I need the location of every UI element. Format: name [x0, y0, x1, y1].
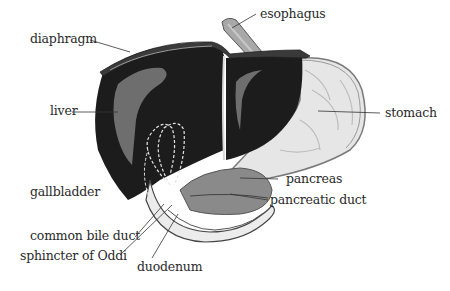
- pancreas-shape: [180, 168, 272, 215]
- label-duodenum: duodenum: [137, 261, 202, 274]
- label-pancreas: pancreas: [286, 173, 342, 186]
- label-gallbladder: gallbladder: [30, 186, 100, 199]
- label-sphincter-of-oddi: sphincter of Oddi: [20, 250, 127, 263]
- label-common-bile-duct: common bile duct: [30, 230, 140, 243]
- label-pancreatic-duct: pancreatic duct: [270, 194, 366, 207]
- label-diaphragm: diaphragm: [30, 33, 97, 46]
- label-liver: liver: [50, 105, 77, 118]
- label-stomach: stomach: [385, 107, 437, 120]
- anatomy-diagram: esophagus diaphragm liver stomach gallbl…: [0, 0, 450, 291]
- label-esophagus: esophagus: [260, 8, 326, 21]
